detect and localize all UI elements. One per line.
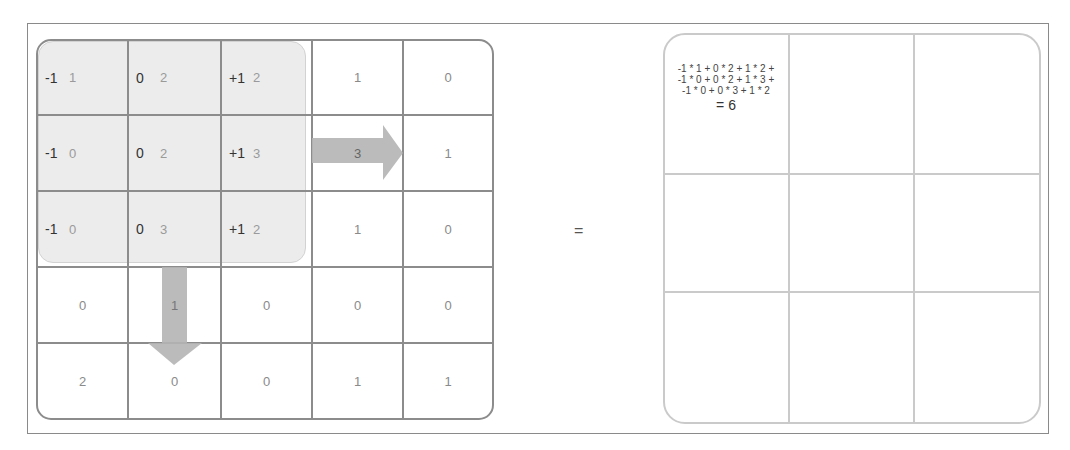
kernel-weight: 0 bbox=[136, 145, 160, 161]
kernel-weight: +1 bbox=[229, 70, 253, 86]
equals-sign: = bbox=[574, 222, 583, 240]
kernel-cell: -10 bbox=[38, 192, 127, 266]
kernel-cell: +12 bbox=[222, 192, 311, 266]
kernel-weight: -1 bbox=[45, 221, 69, 237]
cell-value: 3 bbox=[253, 146, 260, 161]
matrix-cell: 1 bbox=[404, 344, 492, 418]
kernel-cell: +13 bbox=[222, 116, 311, 190]
matrix-cell: 1 bbox=[404, 116, 492, 190]
kernel-weight: +1 bbox=[229, 145, 253, 161]
kernel-cell: +12 bbox=[222, 41, 311, 114]
grid-line bbox=[664, 173, 1040, 175]
matrix-cell: 0 bbox=[313, 268, 402, 342]
kernel-cell: 02 bbox=[129, 116, 220, 190]
formula-result: = 6 bbox=[665, 97, 787, 113]
kernel-cell: -11 bbox=[38, 41, 127, 114]
matrix-cell: 0 bbox=[404, 192, 492, 266]
formula-line: -1 * 0 + 0 * 2 + 1 * 3 + bbox=[665, 74, 787, 85]
matrix-cell: 0 bbox=[129, 344, 220, 418]
formula-line: -1 * 1 + 0 * 2 + 1 * 2 + bbox=[665, 63, 787, 74]
matrix-cell: 2 bbox=[38, 344, 127, 418]
formula-line: -1 * 0 + 0 * 3 + 1 * 2 bbox=[665, 85, 787, 96]
matrix-cell: 0 bbox=[404, 268, 492, 342]
matrix-cell: 0 bbox=[404, 41, 492, 114]
kernel-cell: 03 bbox=[129, 192, 220, 266]
cell-value: 0 bbox=[69, 146, 76, 161]
matrix-cell: 0 bbox=[38, 268, 127, 342]
cell-value: 2 bbox=[253, 70, 260, 85]
kernel-weight: -1 bbox=[45, 70, 69, 86]
cell-value: 2 bbox=[253, 222, 260, 237]
matrix-cell: 1 bbox=[313, 41, 402, 114]
kernel-cell: 02 bbox=[129, 41, 220, 114]
matrix-cell: 1 bbox=[313, 192, 402, 266]
kernel-cell: -10 bbox=[38, 116, 127, 190]
matrix-cell: 1 bbox=[313, 344, 402, 418]
output-cell-formula: -1 * 1 + 0 * 2 + 1 * 2 + -1 * 0 + 0 * 2 … bbox=[665, 63, 787, 113]
matrix-cell: 0 bbox=[222, 268, 311, 342]
kernel-weight: 0 bbox=[136, 70, 160, 86]
caption-fragment bbox=[0, 0, 1070, 6]
matrix-cell: 1 bbox=[129, 268, 220, 342]
kernel-weight: +1 bbox=[229, 221, 253, 237]
cell-value: 2 bbox=[160, 70, 167, 85]
matrix-cell: 3 bbox=[313, 116, 402, 190]
grid-line bbox=[913, 34, 915, 423]
cell-value: 3 bbox=[160, 222, 167, 237]
cell-value: 1 bbox=[69, 70, 76, 85]
kernel-weight: -1 bbox=[45, 145, 69, 161]
cell-value: 2 bbox=[160, 146, 167, 161]
matrix-cell: 0 bbox=[222, 344, 311, 418]
kernel-weight: 0 bbox=[136, 221, 160, 237]
grid-line bbox=[788, 34, 790, 423]
cell-value: 0 bbox=[69, 222, 76, 237]
grid-line bbox=[664, 291, 1040, 293]
